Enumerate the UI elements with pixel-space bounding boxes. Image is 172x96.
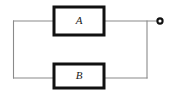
block-b: B	[54, 64, 104, 88]
block-a: A	[54, 7, 104, 35]
block-diagram-figure: A B	[0, 0, 172, 96]
diagram-canvas: A B	[0, 0, 172, 96]
output-terminal-node	[157, 18, 162, 23]
block-b-label: B	[76, 69, 83, 81]
block-a-label: A	[75, 14, 83, 26]
